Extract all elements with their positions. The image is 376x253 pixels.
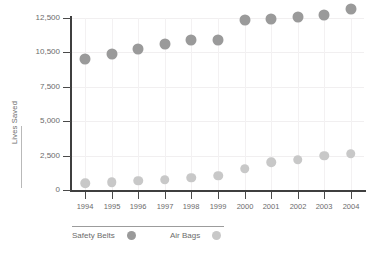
x-axis-tick	[351, 192, 352, 199]
data-point	[239, 14, 250, 25]
data-point	[266, 158, 276, 168]
y-axis-tick-label: 2,500	[40, 151, 60, 160]
y-axis-tick	[63, 156, 71, 157]
y-axis-title: Lives Saved	[10, 85, 19, 161]
gridline-vertical	[351, 18, 352, 190]
x-axis-tick	[165, 192, 166, 199]
data-point	[345, 4, 356, 15]
x-axis-tick	[85, 192, 86, 199]
gridline-vertical	[85, 18, 86, 190]
data-point	[240, 164, 250, 174]
x-axis-tick	[271, 192, 272, 199]
data-point	[159, 38, 170, 49]
y-axis-tick-label: 5,000	[40, 116, 60, 125]
data-point	[80, 54, 91, 65]
gridline-vertical	[112, 18, 113, 190]
data-point	[319, 151, 329, 161]
x-axis-tick-label: 2004	[334, 202, 368, 211]
x-axis-tick	[245, 192, 246, 199]
data-point	[160, 175, 170, 185]
y-axis-tick	[63, 52, 71, 53]
gridline-vertical	[324, 18, 325, 190]
legend-item[interactable]: Safety Belts	[72, 227, 136, 243]
y-axis-tick	[63, 121, 71, 122]
data-point	[81, 178, 91, 188]
x-axis-tick	[112, 192, 113, 199]
y-axis-tick	[63, 87, 71, 88]
legend-label: Air Bags	[170, 231, 200, 240]
data-point	[346, 149, 356, 159]
y-axis-title-rule	[21, 126, 22, 188]
x-axis-tick	[138, 192, 139, 199]
legend-item[interactable]: Air Bags	[170, 227, 221, 243]
y-axis-tick-label: 7,500	[40, 82, 60, 91]
data-point	[107, 178, 117, 188]
data-point	[134, 176, 144, 186]
y-axis-tick-label: 12,500	[36, 13, 60, 22]
data-point	[106, 48, 117, 59]
x-axis-tick	[298, 192, 299, 199]
data-point	[266, 13, 277, 24]
scatter-chart: Lives Saved 02,5005,0007,50010,50012,500…	[0, 0, 376, 253]
y-axis-tick	[63, 190, 71, 191]
data-point	[187, 173, 197, 183]
legend-swatch-icon	[127, 231, 136, 240]
plot-area	[72, 18, 364, 190]
data-point	[186, 35, 197, 46]
data-point	[133, 43, 144, 54]
x-axis-tick	[324, 192, 325, 199]
y-axis-tick-label: 10,500	[36, 47, 60, 56]
data-point	[293, 155, 303, 165]
x-axis-tick	[191, 192, 192, 199]
data-point	[292, 12, 303, 23]
legend-swatch-icon	[212, 231, 221, 240]
y-axis-tick	[63, 18, 71, 19]
y-axis-spine	[70, 16, 72, 192]
data-point	[213, 35, 224, 46]
legend-label: Safety Belts	[72, 231, 115, 240]
y-axis-tick-label: 0	[56, 185, 60, 194]
data-point	[213, 171, 223, 181]
x-axis-tick	[218, 192, 219, 199]
data-point	[319, 9, 330, 20]
